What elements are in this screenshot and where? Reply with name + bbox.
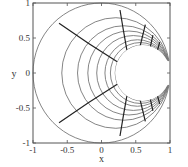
y-tick-label: -0.5 — [16, 103, 31, 113]
x-tick-label: 0.5 — [130, 145, 142, 155]
y-tick-label: -1 — [23, 138, 31, 148]
y-tick-label: 0 — [26, 68, 31, 78]
plot-frame — [33, 3, 170, 143]
circle-curve — [110, 43, 170, 104]
circle-curve — [62, 18, 170, 129]
y-tick-label: 0.5 — [19, 33, 31, 43]
circle-curve — [115, 45, 170, 101]
radial-curve — [59, 23, 117, 62]
radial-curves — [59, 10, 160, 136]
x-axis-label: x — [99, 153, 104, 164]
radial-curve — [59, 84, 117, 123]
y-axis-label: y — [12, 68, 17, 79]
y-tick-label: 1 — [26, 0, 31, 8]
x-tick-label: -1 — [29, 145, 37, 155]
circle-curve — [33, 3, 170, 143]
x-tick-label: -0.5 — [60, 145, 75, 155]
x-tick-label: 1 — [168, 145, 173, 155]
chart: -1-0.500.51 -1-0.500.51 x y — [0, 0, 188, 167]
circle-curve — [78, 26, 170, 121]
circle-curve — [88, 31, 170, 115]
plot-curves — [33, 3, 170, 143]
circle-curve — [105, 40, 170, 107]
